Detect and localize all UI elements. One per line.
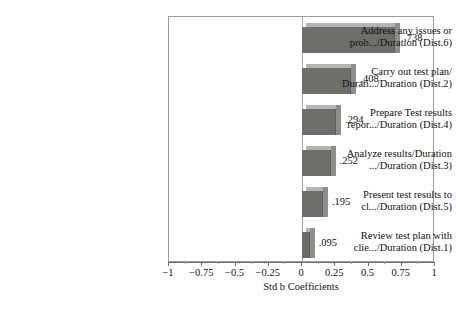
x-tick-major (368, 262, 369, 266)
x-axis-title: Std b Coefficients (168, 281, 434, 292)
category-label: Address any issues or prob.../Duration (… (292, 25, 456, 50)
x-tick-major (268, 262, 269, 266)
x-tick-minor (185, 262, 186, 264)
x-tick-major (201, 262, 202, 266)
x-tick-label: 0.5 (361, 267, 374, 278)
x-axis: −1−0.75−0.5−0.2500.250.50.751 (168, 262, 434, 263)
category-label: Carry out test plan/ Durati.../Duration … (292, 66, 456, 91)
x-tick-minor (384, 262, 385, 264)
x-tick-label: −0.5 (225, 267, 244, 278)
x-tick-label: −1 (162, 267, 173, 278)
x-tick-minor (318, 262, 319, 264)
x-tick-minor (284, 262, 285, 264)
category-label: Present test results to cl.../Duration (… (292, 189, 456, 214)
x-tick-minor (218, 262, 219, 264)
x-tick-label: −0.75 (189, 267, 213, 278)
x-tick-label: 0 (298, 267, 303, 278)
chart-page: .738.408.294.252.195.095 Address any iss… (0, 0, 456, 311)
zero-reference-line (302, 17, 303, 261)
x-tick-major (168, 262, 169, 266)
category-label: Analyze results/Duration .../Duration (D… (292, 148, 456, 173)
x-tick-major (401, 262, 402, 266)
x-tick-major (434, 262, 435, 266)
x-tick-minor (351, 262, 352, 264)
x-tick-major (235, 262, 236, 266)
x-tick-label: 0.75 (392, 267, 410, 278)
category-label: Prepare Test results repor.../Duration (… (292, 107, 456, 132)
x-tick-minor (417, 262, 418, 264)
x-tick-major (334, 262, 335, 266)
x-tick-major (301, 262, 302, 266)
x-tick-minor (251, 262, 252, 264)
x-tick-label: 0.25 (325, 267, 343, 278)
category-label: Review test plan with clie.../Duration (… (292, 230, 456, 255)
x-tick-label: 1 (431, 267, 436, 278)
plot-frame: .738.408.294.252.195.095 (168, 16, 434, 262)
x-tick-label: −0.25 (256, 267, 280, 278)
